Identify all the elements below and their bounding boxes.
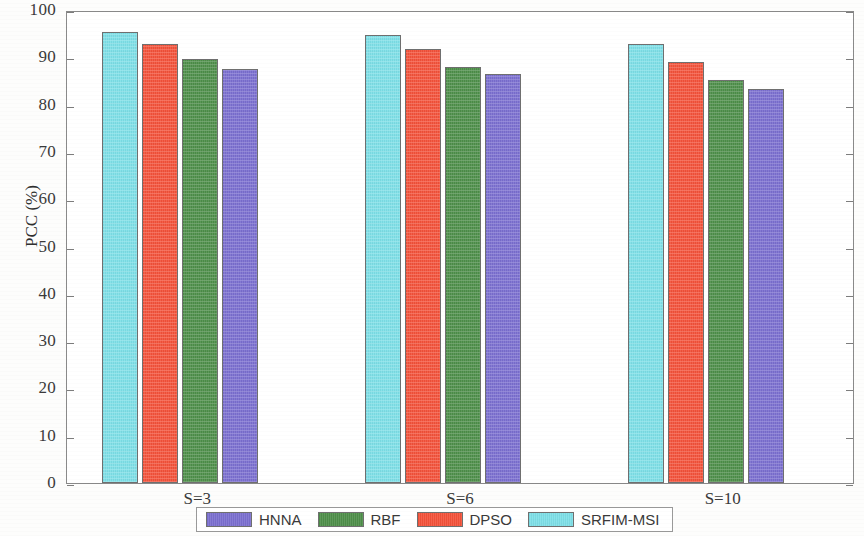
legend-swatch-hnna	[206, 512, 252, 527]
bar-texture	[406, 50, 440, 482]
bar-dpso-s-3	[142, 44, 178, 483]
bar-texture	[446, 68, 480, 482]
bar-texture	[223, 70, 257, 482]
bar-texture	[366, 36, 400, 482]
legend-swatch-srfim-msi	[528, 512, 574, 527]
legend-swatch-texture	[418, 513, 462, 526]
y-tick-mark-right	[846, 59, 853, 60]
legend-entry-dpso: DPSO	[417, 511, 513, 528]
y-tick-mark	[67, 12, 74, 13]
y-tick-mark-right	[846, 296, 853, 297]
legend-entry-hnna: HNNA	[206, 511, 302, 528]
bar-texture	[709, 81, 743, 482]
y-tick-mark	[67, 249, 74, 250]
y-tick-label: 70	[0, 142, 56, 162]
bar-hnna-s-3	[222, 69, 258, 483]
x-tick-label: S=6	[400, 489, 520, 509]
y-tick-label: 90	[0, 47, 56, 67]
legend-label: HNNA	[259, 511, 302, 528]
legend-swatch-texture	[529, 513, 573, 526]
y-tick-label: 80	[0, 95, 56, 115]
bar-rbf-s-6	[445, 67, 481, 483]
bar-hnna-s-10	[748, 89, 784, 483]
y-tick-label: 10	[0, 426, 56, 446]
y-tick-label: 40	[0, 284, 56, 304]
legend-entry-srfim-msi: SRFIM-MSI	[528, 511, 659, 528]
legend-entry-rbf: RBF	[318, 511, 401, 528]
bar-texture	[103, 33, 137, 482]
legend-swatch-texture	[319, 513, 363, 526]
y-tick-label: 50	[0, 237, 56, 257]
bar-srfim-msi-s-3	[102, 32, 138, 483]
plot-area	[66, 11, 854, 484]
y-tick-mark-right	[846, 107, 853, 108]
y-tick-mark-right	[846, 343, 853, 344]
figure-canvas: PCC (%) 0102030405060708090100 S=3S=6S=1…	[0, 0, 864, 536]
legend-swatch-texture	[207, 513, 251, 526]
bar-texture	[183, 60, 217, 482]
bar-texture	[669, 63, 703, 482]
y-tick-label: 60	[0, 189, 56, 209]
y-tick-mark-right	[846, 249, 853, 250]
legend-label: RBF	[371, 511, 401, 528]
bar-dpso-s-6	[405, 49, 441, 483]
bar-rbf-s-3	[182, 59, 218, 483]
bar-dpso-s-10	[668, 62, 704, 483]
bar-srfim-msi-s-10	[628, 44, 664, 483]
legend-swatch-dpso	[417, 512, 463, 527]
legend-label: DPSO	[470, 511, 513, 528]
y-tick-mark	[67, 154, 74, 155]
y-tick-label: 30	[0, 331, 56, 351]
chart-legend: HNNARBFDPSOSRFIM-MSI	[196, 507, 673, 532]
bar-texture	[143, 45, 177, 482]
y-tick-mark	[67, 390, 74, 391]
bar-texture	[486, 75, 520, 482]
y-tick-mark	[67, 343, 74, 344]
y-tick-mark	[67, 59, 74, 60]
x-tick-label: S=3	[137, 489, 257, 509]
legend-label: SRFIM-MSI	[581, 511, 659, 528]
bar-rbf-s-10	[708, 80, 744, 483]
y-tick-label: 0	[0, 473, 56, 493]
y-tick-label: 20	[0, 378, 56, 398]
bar-texture	[629, 45, 663, 482]
legend-swatch-rbf	[318, 512, 364, 527]
y-tick-mark	[67, 296, 74, 297]
y-tick-mark	[67, 485, 74, 486]
y-tick-mark	[67, 107, 74, 108]
y-tick-mark-right	[846, 438, 853, 439]
y-tick-mark	[67, 438, 74, 439]
y-tick-mark-right	[846, 12, 853, 13]
y-tick-mark-right	[846, 154, 853, 155]
y-tick-mark-right	[846, 390, 853, 391]
y-tick-mark-right	[846, 485, 853, 486]
y-tick-label: 100	[0, 0, 56, 20]
y-tick-mark-right	[846, 201, 853, 202]
y-tick-mark	[67, 201, 74, 202]
bar-texture	[749, 90, 783, 482]
x-tick-label: S=10	[663, 489, 783, 509]
bar-hnna-s-6	[485, 74, 521, 483]
bar-srfim-msi-s-6	[365, 35, 401, 483]
